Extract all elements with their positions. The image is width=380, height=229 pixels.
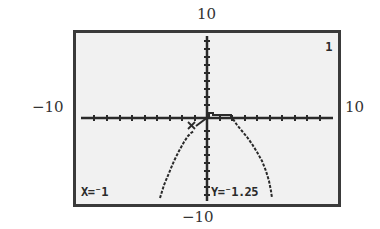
calculator-graph-screen: 1 X=⁻1 Y=⁻1.25 <box>73 30 341 207</box>
xmax-label: 10 <box>345 100 364 115</box>
curve-left-branch <box>160 131 194 198</box>
xmin-label: −10 <box>32 100 64 115</box>
trace-cursor-icon <box>188 122 195 129</box>
graph-number: 1 <box>325 41 332 53</box>
graph-plot <box>76 33 338 204</box>
ymax-label: 10 <box>197 7 216 22</box>
trace-x-value: X=⁻1 <box>81 186 108 198</box>
trace-y-value: Y=⁻1.25 <box>211 186 258 198</box>
ymin-label: −10 <box>182 210 214 225</box>
